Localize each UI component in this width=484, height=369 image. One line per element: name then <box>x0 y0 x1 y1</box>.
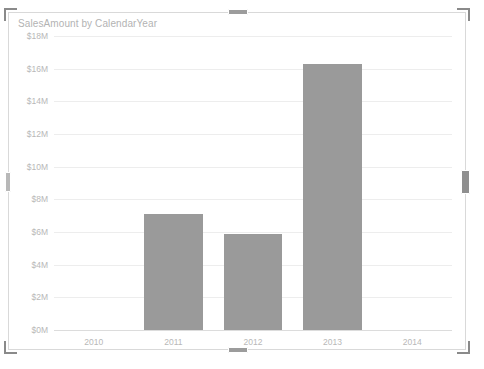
plot-area <box>54 36 452 330</box>
bar-slot[interactable] <box>54 36 134 330</box>
x-axis-tick-label: 2012 <box>213 330 293 356</box>
y-axis-tick-label: $2M <box>31 292 48 302</box>
bar-slot[interactable] <box>372 36 452 330</box>
x-axis-tick-label: 2013 <box>293 330 373 356</box>
bar-slot[interactable] <box>213 36 293 330</box>
right-middle-resize-handle[interactable] <box>461 170 470 194</box>
y-axis-tick-label: $16M <box>27 64 48 74</box>
x-axis-tick-label: 2010 <box>54 330 134 356</box>
y-axis-tick-label: $14M <box>27 96 48 106</box>
top-center-resize-handle[interactable] <box>228 9 248 15</box>
y-axis-tick-label: $4M <box>31 260 48 270</box>
y-axis: $18M$16M$14M$12M$10M$8M$6M$4M$2M$0M <box>8 36 54 330</box>
y-axis-tick-label: $10M <box>27 162 48 172</box>
bar-2012[interactable] <box>224 234 283 330</box>
bar-2013[interactable] <box>303 64 362 330</box>
x-axis: 20102011201220132014 <box>54 330 452 356</box>
y-axis-tick-label: $12M <box>27 129 48 139</box>
chart-title: SalesAmount by CalendarYear <box>18 18 157 29</box>
plot-wrapper: $18M$16M$14M$12M$10M$8M$6M$4M$2M$0M 2010… <box>8 36 462 350</box>
y-axis-tick-label: $18M <box>27 31 48 41</box>
y-axis-tick-label: $8M <box>31 194 48 204</box>
chart-visual-container[interactable]: SalesAmount by CalendarYear $18M$16M$14M… <box>8 12 466 350</box>
top-left-resize-handle[interactable] <box>4 8 17 21</box>
bar-slot[interactable] <box>134 36 214 330</box>
x-axis-tick-label: 2011 <box>134 330 214 356</box>
bars-layer <box>54 36 452 330</box>
bar-2011[interactable] <box>144 214 203 330</box>
top-right-resize-handle[interactable] <box>457 8 470 21</box>
x-axis-tick-label: 2014 <box>372 330 452 356</box>
bar-slot[interactable] <box>293 36 373 330</box>
y-axis-tick-label: $6M <box>31 227 48 237</box>
y-axis-tick-label: $0M <box>31 325 48 335</box>
